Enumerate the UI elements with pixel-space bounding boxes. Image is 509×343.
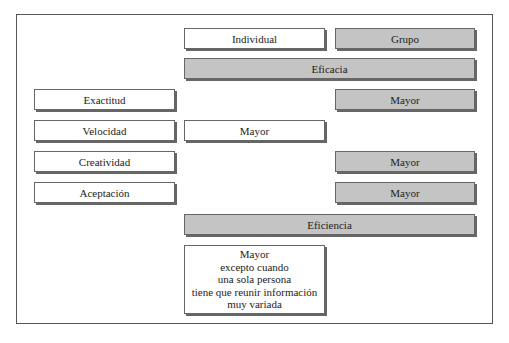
result-label: Mayor (390, 156, 419, 168)
header-individual-label: Individual (232, 33, 277, 45)
result-label: Mayor (240, 125, 269, 137)
section-efficacy-label: Eficacia (311, 63, 347, 75)
result-aceptacion-group: Mayor (335, 182, 475, 203)
header-individual: Individual (184, 28, 325, 49)
note-line: muy variada (227, 298, 282, 311)
criterion-exactitud: Exactitud (34, 89, 175, 110)
criterion-aceptacion: Aceptación (34, 182, 175, 203)
result-label: Mayor (390, 94, 419, 106)
header-group: Grupo (335, 28, 475, 49)
criterion-label: Exactitud (83, 94, 125, 106)
criterion-label: Velocidad (83, 125, 127, 137)
note-line: una sola persona (218, 273, 291, 286)
note-line: tiene que reunir información (192, 286, 318, 299)
result-exactitud-group: Mayor (335, 89, 475, 110)
efficiency-note: Mayor excepto cuando una sola persona ti… (184, 245, 325, 314)
criterion-velocidad: Velocidad (34, 120, 175, 141)
criterion-label: Aceptación (79, 187, 129, 199)
header-group-label: Grupo (391, 33, 419, 45)
note-line: excepto cuando (220, 261, 289, 274)
result-creatividad-group: Mayor (335, 151, 475, 172)
criterion-label: Creatividad (79, 156, 130, 168)
section-efficacy: Eficacia (184, 58, 475, 79)
criterion-creatividad: Creatividad (34, 151, 175, 172)
note-line: Mayor (240, 248, 269, 261)
section-efficiency: Eficiencia (184, 214, 475, 235)
result-velocidad-individual: Mayor (184, 120, 325, 141)
result-label: Mayor (390, 187, 419, 199)
section-efficiency-label: Eficiencia (307, 219, 352, 231)
